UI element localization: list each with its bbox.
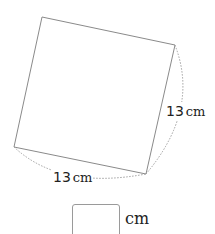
- answer-input-box[interactable]: [72, 204, 120, 234]
- right-side-length-unit: cm: [186, 104, 206, 119]
- right-side-length-value: 13: [166, 103, 184, 119]
- answer-unit-label: cm: [125, 210, 149, 228]
- bottom-side-length-label: 13cm: [53, 170, 92, 185]
- right-side-length-label: 13cm: [166, 104, 205, 119]
- bottom-side-length-value: 13: [53, 169, 71, 185]
- square-outline: [14, 17, 175, 174]
- bottom-side-length-unit: cm: [73, 170, 93, 185]
